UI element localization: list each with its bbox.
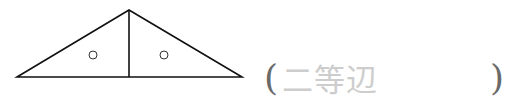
answer-text: 二等辺 <box>282 62 378 98</box>
triangle-figure <box>0 0 260 100</box>
answer-blank: ( 二等辺 ) <box>262 58 515 100</box>
angle-mark-circle-left <box>89 51 97 59</box>
angle-mark-circle-right <box>160 51 168 59</box>
open-parenthesis: ( <box>264 58 278 98</box>
triangle-diagram <box>0 0 260 100</box>
close-parenthesis: ) <box>490 58 504 98</box>
